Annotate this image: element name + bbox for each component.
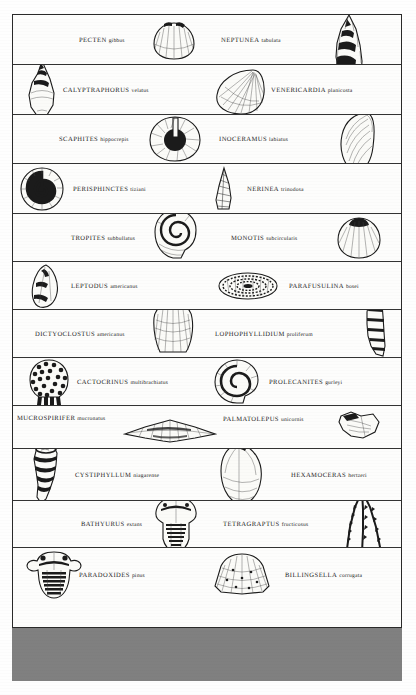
productid-brachiopod-icon bbox=[146, 310, 200, 356]
species-name: americanus bbox=[110, 283, 137, 289]
species-name: corrugata bbox=[339, 572, 362, 578]
elongated-bivalve-icon bbox=[337, 115, 377, 164]
fossil-cell-left: MUCROSPIRIFERmucronatus bbox=[13, 406, 207, 448]
page-canvas: PECTENgibbus bbox=[0, 0, 416, 695]
species-name: trinodosa bbox=[281, 186, 304, 192]
fossil-cell-left: PERISPHINCTEStiziani bbox=[13, 164, 207, 213]
species-name: bosei bbox=[346, 283, 359, 289]
genus-name: CYSTIPHYLLUM bbox=[75, 471, 131, 478]
fossil-label: PALMATOLEPUSunicornis bbox=[223, 415, 304, 422]
species-name: planicosta bbox=[328, 87, 353, 93]
species-name: tiziani bbox=[130, 186, 145, 192]
fossil-label: VENERICARDIAplanicosta bbox=[271, 86, 353, 93]
fossil-cell-right: LOPHOPHYLLIDIUMproliferum bbox=[207, 310, 401, 357]
fan-brachiopod-icon bbox=[211, 552, 273, 596]
genus-name: PARAFUSULINA bbox=[289, 282, 344, 289]
fossil-cell-left: SCAPHITEShippocrepis bbox=[13, 115, 207, 163]
fossil-cell-left: CALYPTRAPHORUSvelatus bbox=[13, 65, 207, 114]
species-name: gurleyi bbox=[325, 379, 342, 385]
table-row: CALYPTRAPHORUSvelatus bbox=[13, 65, 401, 115]
fossil-cell-left: LEPTODUSamericanus bbox=[13, 262, 207, 309]
genus-name: HEXAMOCERAS bbox=[291, 471, 346, 478]
table-row: PECTENgibbus bbox=[13, 15, 401, 65]
species-name: multibrachiatus bbox=[130, 379, 168, 385]
fossil-cell-right: PARAFUSULINAbosei bbox=[207, 262, 401, 309]
genus-name: NEPTUNEA bbox=[221, 36, 259, 43]
crinoid-calyx-icon bbox=[27, 358, 71, 406]
conodont-platform-icon bbox=[335, 410, 381, 442]
genus-name: SCAPHITES bbox=[59, 136, 98, 143]
genus-name: BATHYURUS bbox=[81, 521, 125, 528]
genus-name: MUCROSPIRIFER bbox=[17, 414, 75, 421]
table-row: PARADOXIDESpinus bbox=[13, 548, 401, 601]
fossil-cell-right: INOCERAMUSlabiatus bbox=[207, 115, 401, 163]
genus-name: LEPTODUS bbox=[71, 282, 108, 289]
fossil-cell-left: CACTOCRINUSmultibrachiatus bbox=[13, 358, 207, 405]
fossil-label: TROPITESsubbullatus bbox=[71, 234, 135, 241]
nautiloid-shell-icon bbox=[217, 449, 265, 501]
fossil-label: LOPHOPHYLLIDIUMproliferum bbox=[215, 330, 313, 337]
fossil-label: PROLECANITESgurleyi bbox=[269, 378, 342, 385]
genus-name: PECTEN bbox=[79, 36, 107, 43]
genus-name: MONOTIS bbox=[231, 234, 264, 241]
horn-coral-icon bbox=[347, 310, 387, 358]
genus-name: PERISPHINCTES bbox=[73, 185, 128, 192]
species-name: tabulata bbox=[261, 37, 280, 43]
fossil-cell-right: PALMATOLEPUSunicornis bbox=[207, 406, 401, 448]
table-row: BATHYURUSextans bbox=[13, 501, 401, 548]
species-name: unicornis bbox=[281, 416, 304, 422]
genus-name: NERINEA bbox=[247, 185, 279, 192]
fossil-label: CACTOCRINUSmultibrachiatus bbox=[77, 378, 168, 385]
fossil-cell-left: PARADOXIDESpinus bbox=[13, 548, 207, 601]
species-name: gibbus bbox=[109, 37, 125, 43]
trilobite-icon bbox=[153, 501, 199, 548]
ammonite-spiral-icon bbox=[19, 166, 65, 212]
table-row: MUCROSPIRIFERmucronatus bbox=[13, 406, 401, 449]
species-name: extans bbox=[127, 522, 143, 528]
table-row: CACTOCRINUSmultibrachiatus bbox=[13, 358, 401, 406]
genus-name: CALYPTRAPHORUS bbox=[63, 86, 129, 93]
ribbed-clam-icon bbox=[213, 67, 267, 115]
fossil-label: PARADOXIDESpinus bbox=[79, 571, 145, 578]
index-fossil-chart-frame: PECTENgibbus bbox=[12, 14, 402, 628]
fossil-label: PERISPHINCTEStiziani bbox=[73, 185, 146, 192]
rugose-coral-icon bbox=[27, 449, 63, 501]
coiled-ammonite-icon bbox=[151, 214, 199, 262]
fossil-label: PARAFUSULINAbosei bbox=[289, 282, 359, 289]
conical-gastropod-icon bbox=[213, 166, 235, 212]
table-row: SCAPHITEShippocrepis bbox=[13, 115, 401, 164]
fossil-cell-right: NEPTUNEAtabulata bbox=[207, 15, 401, 64]
species-name: fructicosus bbox=[282, 522, 309, 528]
genus-name: BILLINGSELLA bbox=[285, 571, 337, 578]
spiral-snail-shell-icon bbox=[327, 15, 369, 65]
fossil-label: PECTENgibbus bbox=[79, 36, 125, 43]
genus-name: TETRAGRAPTUS bbox=[223, 521, 280, 528]
fossil-label: TETRAGRAPTUSfructicosus bbox=[223, 521, 308, 528]
scallop-shell-icon bbox=[150, 18, 198, 62]
table-row: PERISPHINCTEStiziani bbox=[13, 164, 401, 214]
teardrop-brachiopod-icon bbox=[27, 263, 61, 309]
genus-name: PROLECANITES bbox=[269, 378, 323, 385]
fossil-label: DICTYOCLOSTUSamericanus bbox=[35, 330, 125, 337]
species-name: velatus bbox=[131, 87, 148, 93]
genus-name: VENERICARDIA bbox=[271, 86, 326, 93]
fossil-cell-left: PECTENgibbus bbox=[13, 15, 207, 64]
fossil-label: SCAPHITEShippocrepis bbox=[59, 136, 129, 143]
fossil-label: NEPTUNEAtabulata bbox=[221, 36, 281, 43]
table-row: DICTYOCLOSTUSamericanus bbox=[13, 310, 401, 358]
species-name: pinus bbox=[132, 572, 145, 578]
species-name: subcircularis bbox=[266, 235, 297, 241]
fossil-label: MONOTISsubcircularis bbox=[231, 234, 297, 241]
fossil-label: CYSTIPHYLLUMniagarense bbox=[75, 471, 159, 478]
genus-name: CACTOCRINUS bbox=[77, 378, 128, 385]
species-name: proliferum bbox=[287, 331, 313, 337]
fossil-label: LEPTODUSamericanus bbox=[71, 282, 138, 289]
spindle-shell-icon bbox=[25, 65, 59, 115]
genus-name: PARADOXIDES bbox=[79, 571, 130, 578]
table-row: CYSTIPHYLLUMniagarense bbox=[13, 449, 401, 501]
genus-name: TROPITES bbox=[71, 234, 105, 241]
species-name: hertzeri bbox=[348, 472, 367, 478]
species-name: hippocrepis bbox=[100, 137, 128, 143]
genus-name: INOCERAMUS bbox=[219, 136, 267, 143]
fossil-label: MUCROSPIRIFERmucronatus bbox=[17, 414, 105, 421]
